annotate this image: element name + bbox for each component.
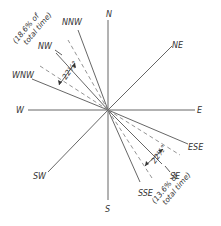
label-nnw: NNW — [62, 18, 83, 27]
dashed-se-lower — [108, 110, 152, 178]
label-wnw: WNW — [12, 71, 35, 80]
ray-nnw — [78, 30, 108, 110]
dashed-nw-upper — [68, 40, 108, 110]
label-nw: NW — [38, 42, 53, 51]
label-n: N — [106, 10, 112, 19]
label-ne: NE — [172, 41, 184, 50]
label-w: W — [16, 106, 25, 115]
label-ese: ESE — [188, 143, 204, 152]
ray-sw — [48, 110, 108, 172]
nw-angle-text: 22½° — [60, 59, 79, 81]
wind-rose-diagram: N NE E ESE SE SSE S SW W WNW NW NNW 22½°… — [0, 0, 221, 226]
label-sw: SW — [33, 172, 47, 181]
nw-leader — [55, 50, 62, 55]
ray-ese — [108, 110, 188, 144]
dashed-se-upper — [108, 110, 180, 155]
label-s: S — [105, 205, 110, 214]
label-e: E — [197, 106, 203, 115]
se-arrow-head-1 — [145, 161, 149, 166]
ray-wnw — [32, 79, 108, 110]
ray-ne — [108, 46, 172, 110]
ray-sse — [108, 110, 140, 182]
